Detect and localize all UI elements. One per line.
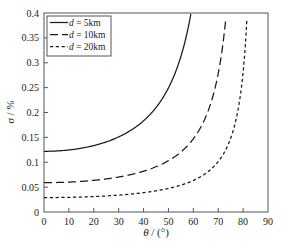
x-tick-label: 80 xyxy=(238,216,248,227)
svg-text:θ / (°): θ / (°) xyxy=(143,226,169,239)
y-axis-title-rest: / % xyxy=(4,100,16,118)
y-tick-label: 0.35 xyxy=(22,32,40,43)
svg-text:σ / %: σ / % xyxy=(4,100,16,123)
legend-label: d = 10km xyxy=(69,30,106,40)
y-tick-label: 0.1 xyxy=(27,157,40,168)
y-axis-title: σ / % xyxy=(4,100,16,123)
x-tick-label: 90 xyxy=(263,216,273,227)
x-axis-title: θ / (°) xyxy=(143,226,169,239)
x-axis-title-rest: / (°) xyxy=(149,226,170,239)
legend-label: d = 5km xyxy=(69,18,101,28)
legend: d = 5kmd = 10kmd = 20km xyxy=(47,16,111,56)
x-tick-label: 10 xyxy=(64,216,74,227)
x-tick-label: 0 xyxy=(42,216,47,227)
y-tick-label: 0.25 xyxy=(22,82,40,93)
y-tick-label: 0.2 xyxy=(27,107,40,118)
y-tick-label: 0.05 xyxy=(22,182,40,193)
legend-label: d = 20km xyxy=(69,42,106,52)
y-tick-label: 0 xyxy=(34,207,39,218)
x-tick-label: 20 xyxy=(89,216,99,227)
y-tick-label: 0.3 xyxy=(27,57,40,68)
x-tick-label: 60 xyxy=(188,216,198,227)
x-tick-label: 30 xyxy=(114,216,124,227)
y-tick-label: 0.4 xyxy=(27,8,40,19)
y-tick-label: 0.15 xyxy=(22,132,40,143)
chart-figure: 0102030405060708090 00.050.10.150.20.250… xyxy=(0,0,282,247)
x-tick-label: 70 xyxy=(213,216,223,227)
